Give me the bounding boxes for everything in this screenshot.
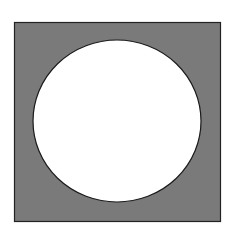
diagram [0,0,236,237]
white-circle [33,40,201,202]
